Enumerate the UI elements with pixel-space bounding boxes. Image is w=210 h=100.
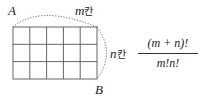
point-b-label: B (95, 83, 103, 96)
top-span-label: m칸 (75, 4, 93, 17)
formula: (m + n)! m!n! (136, 36, 200, 71)
right-span-label: n칸 (110, 47, 126, 60)
top-span-var: m (75, 3, 84, 18)
top-span-arc (13, 16, 97, 28)
formula-denominator: m!n! (136, 54, 200, 71)
grid (13, 27, 97, 79)
point-a-label: A (8, 4, 16, 17)
top-span-unit: 칸 (84, 6, 93, 17)
formula-numerator: (m + n)! (136, 36, 200, 53)
right-span-arc (97, 27, 107, 79)
right-span-unit: 칸 (117, 49, 126, 60)
